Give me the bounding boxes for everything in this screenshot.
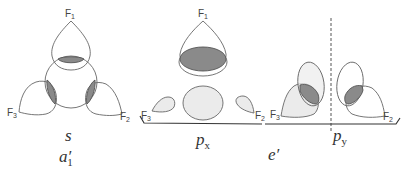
panel-py: F3 F2 py bbox=[265, 18, 400, 147]
overlap-right bbox=[345, 85, 363, 104]
panel-s: F1 F3 F2 s a′1 bbox=[7, 8, 130, 168]
overlap-right bbox=[86, 80, 95, 104]
f2-ligand-lobe bbox=[236, 96, 254, 113]
overlap-left bbox=[47, 80, 56, 104]
f3-label: F3 bbox=[270, 109, 280, 121]
f3-label: F3 bbox=[141, 110, 151, 122]
overlap-top bbox=[180, 47, 226, 71]
symmetry-label-e-prime: e′ bbox=[268, 145, 280, 164]
orbital-label-px: px bbox=[195, 130, 211, 151]
f2-label: F2 bbox=[255, 110, 265, 122]
f3-label: F3 bbox=[7, 107, 17, 119]
symmetry-label-a1-prime: a′1 bbox=[59, 147, 73, 168]
f3-ligand-lobe bbox=[152, 97, 175, 112]
f1-label: F1 bbox=[198, 8, 208, 20]
orbital-overlap-diagram: F1 F3 F2 s a′1 F1 F3 F2 bbox=[0, 0, 404, 171]
orbital-label-s: s bbox=[65, 126, 72, 145]
px-lower-lobe bbox=[183, 86, 223, 120]
f1-label: F1 bbox=[65, 8, 75, 20]
overlap-top bbox=[58, 57, 84, 63]
f2-label: F2 bbox=[383, 111, 393, 123]
orbital-label-py: py bbox=[332, 126, 348, 147]
f2-label: F2 bbox=[120, 111, 130, 123]
panel-px: F1 F3 F2 px bbox=[140, 8, 265, 151]
molecular-plane-baseline bbox=[265, 118, 400, 124]
